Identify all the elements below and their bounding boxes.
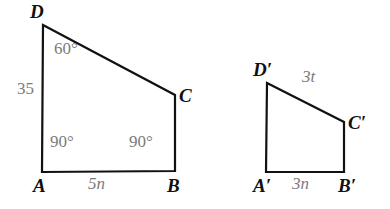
side-label-da-35: 35 [17, 80, 34, 97]
vertex-label-d-prime: D′ [253, 60, 272, 79]
vertex-label-c-prime: C′ [348, 113, 366, 132]
geometry-figure: DCABD′C′A′B′60°3590°90°5n3t3n [0, 0, 390, 209]
vertex-label-b-prime: B′ [338, 176, 356, 195]
vertex-label-b: B [167, 176, 180, 195]
quadrilateral-a1b1c1d1 [266, 83, 344, 172]
angle-label-d-60: 60° [54, 40, 78, 57]
geometry-canvas [0, 0, 390, 209]
quadrilateral-a1b1c1d1-outline [266, 83, 344, 172]
vertex-label-a: A [33, 176, 46, 195]
vertex-label-d: D [30, 2, 44, 21]
side-label-ab-5n: 5n [88, 175, 105, 192]
vertex-label-c: C [179, 86, 192, 105]
side-label-ab-prime-3n: 3n [292, 175, 309, 192]
angle-label-b-90: 90° [129, 133, 153, 150]
vertex-label-a-prime: A′ [253, 176, 271, 195]
side-label-dc-prime-3t: 3t [302, 68, 315, 85]
angle-label-a-90: 90° [50, 133, 74, 150]
